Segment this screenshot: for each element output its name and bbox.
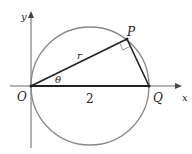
point-q-label: Q bbox=[153, 91, 163, 105]
axes bbox=[10, 11, 182, 148]
x-axis-label: x bbox=[182, 92, 188, 103]
y-axis-label: y bbox=[20, 11, 27, 22]
length-oq-label: 2 bbox=[86, 92, 94, 106]
origin-label: O bbox=[17, 90, 27, 104]
radius-label: r bbox=[77, 50, 83, 61]
angle-label: θ bbox=[55, 74, 61, 85]
polar-circle-diagram: y x O P Q r θ 2 bbox=[0, 0, 192, 154]
point-o bbox=[30, 85, 33, 88]
x-axis-arrow-icon bbox=[175, 83, 182, 89]
segment-op bbox=[31, 39, 127, 86]
y-axis-arrow-icon bbox=[28, 11, 34, 18]
point-q bbox=[148, 85, 151, 88]
point-p-label: P bbox=[126, 25, 136, 39]
